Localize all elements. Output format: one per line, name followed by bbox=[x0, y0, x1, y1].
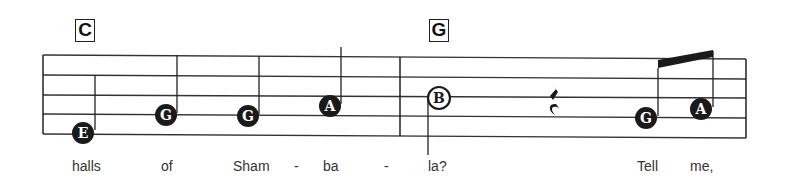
note-letter: A bbox=[695, 101, 708, 117]
note-b-half: B bbox=[428, 87, 450, 109]
quarter-rest-icon bbox=[550, 82, 559, 115]
note-g: G bbox=[635, 107, 657, 129]
note-g: G bbox=[237, 105, 259, 127]
lyric-syllable: Sham bbox=[233, 158, 270, 174]
note-letter: G bbox=[242, 108, 254, 124]
note-letter: G bbox=[160, 107, 172, 123]
note-letter: G bbox=[640, 110, 652, 126]
lyric-syllable: of bbox=[161, 158, 173, 174]
lyric-hyphen: - bbox=[294, 158, 299, 174]
note-letter: B bbox=[433, 90, 445, 106]
note-a: A bbox=[690, 98, 712, 120]
lyric-hyphen: - bbox=[384, 158, 389, 174]
lyric-syllable: ba bbox=[323, 158, 339, 174]
note-letter: E bbox=[78, 125, 89, 141]
lyric-syllable: me, bbox=[690, 158, 713, 174]
note-g: G bbox=[155, 104, 177, 126]
chord-symbol-c: C bbox=[75, 19, 95, 42]
chord-symbol-g: G bbox=[429, 19, 449, 42]
note-a: A bbox=[319, 95, 341, 117]
note-letter: A bbox=[324, 98, 337, 114]
note-e: E bbox=[72, 122, 94, 144]
lyric-syllable: la? bbox=[428, 158, 447, 174]
lyric-syllable: halls bbox=[72, 158, 101, 174]
lyric-syllable: Tell bbox=[637, 158, 658, 174]
music-staff: E G G A B G A bbox=[0, 0, 786, 188]
